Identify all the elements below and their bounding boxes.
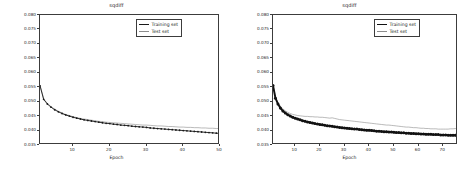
y-axis-tick-mark xyxy=(37,86,39,87)
y-axis-tick-label: 0.065 xyxy=(2,55,36,60)
series-marker-training xyxy=(76,117,78,119)
series-marker-training xyxy=(284,111,287,114)
plot-lines-left xyxy=(40,15,218,143)
y-axis-tick-mark xyxy=(37,130,39,131)
x-axis-tick-label: 70 xyxy=(434,147,450,152)
series-marker-training xyxy=(179,129,181,131)
legend-swatch-test xyxy=(139,31,149,32)
series-marker-training xyxy=(171,129,173,131)
x-axis-label-left: Epoch xyxy=(0,155,233,160)
y-axis-tick-mark xyxy=(270,130,272,131)
series-marker-training xyxy=(146,126,148,128)
series-marker-training xyxy=(72,116,74,118)
series-marker-training xyxy=(116,124,118,126)
series-marker-training xyxy=(142,126,144,128)
series-marker-training xyxy=(43,98,45,100)
series-line-test xyxy=(273,84,456,129)
y-axis-tick-mark xyxy=(37,14,39,15)
series-marker-training xyxy=(212,132,214,134)
y-axis-tick-mark xyxy=(270,72,272,73)
x-axis-tick-mark xyxy=(294,144,295,146)
y-axis-tick-mark xyxy=(37,57,39,58)
series-marker-training xyxy=(273,84,275,87)
series-marker-training xyxy=(279,107,282,110)
y-axis-tick-label: 0.050 xyxy=(2,98,36,103)
x-axis-tick-label: 60 xyxy=(410,147,426,152)
series-marker-training xyxy=(193,131,195,133)
y-axis-tick-mark xyxy=(270,144,272,145)
y-axis-tick-mark xyxy=(270,101,272,102)
legend-label-training: Training set xyxy=(152,22,179,27)
legend-label-test: Test set xyxy=(390,29,408,34)
x-axis-tick-mark xyxy=(368,144,369,146)
y-axis-tick-mark xyxy=(270,57,272,58)
legend-item-training: Training set xyxy=(139,22,178,27)
series-marker-training xyxy=(168,129,170,131)
x-axis-tick-mark xyxy=(344,144,345,146)
series-marker-training xyxy=(80,118,82,120)
series-marker-training xyxy=(186,130,188,132)
x-axis-tick-mark xyxy=(418,144,419,146)
y-axis-tick-mark xyxy=(37,144,39,145)
x-axis-tick-label: 20 xyxy=(311,147,327,152)
series-marker-training xyxy=(197,131,199,133)
legend-label-test: Test set xyxy=(152,29,170,34)
series-marker-training xyxy=(113,123,115,125)
y-axis-tick-label: 0.055 xyxy=(235,84,269,89)
x-axis-tick-label: 50 xyxy=(385,147,401,152)
series-marker-training xyxy=(65,114,67,116)
y-axis-tick-label: 0.080 xyxy=(235,12,269,17)
legend-swatch-training xyxy=(139,24,149,25)
y-axis-tick-label: 0.080 xyxy=(2,12,36,17)
series-marker-training xyxy=(131,125,133,127)
series-marker-training xyxy=(83,119,85,121)
y-axis-tick-label: 0.070 xyxy=(2,40,36,45)
series-marker-training xyxy=(98,121,100,123)
x-axis-tick-mark xyxy=(442,144,443,146)
series-marker-training xyxy=(190,130,192,132)
series-marker-training xyxy=(160,128,162,130)
y-axis-tick-label: 0.045 xyxy=(2,113,36,118)
series-marker-training xyxy=(91,120,93,122)
legend-right: Training set Test set xyxy=(374,19,420,37)
series-marker-training xyxy=(182,130,184,132)
series-marker-training xyxy=(274,97,277,100)
x-axis-tick-label: 10 xyxy=(64,147,80,152)
legend-left: Training set Test set xyxy=(136,19,182,37)
series-marker-training xyxy=(102,122,104,124)
y-axis-tick-label: 0.055 xyxy=(2,84,36,89)
series-marker-training xyxy=(54,109,56,111)
figure-container: sqdiff 0.0350.0400.0450.0500.0550.0600.0… xyxy=(0,0,466,172)
series-marker-training xyxy=(215,132,217,134)
y-axis-tick-label: 0.060 xyxy=(235,69,269,74)
legend-item-test: Test set xyxy=(139,29,178,34)
x-axis-tick-label: 30 xyxy=(138,147,154,152)
y-axis-tick-label: 0.075 xyxy=(2,26,36,31)
y-axis-tick-mark xyxy=(37,43,39,44)
chart-panel-left: sqdiff 0.0350.0400.0450.0500.0550.0600.0… xyxy=(0,0,233,172)
x-axis-tick-label: 40 xyxy=(360,147,376,152)
y-axis-tick-label: 0.040 xyxy=(235,127,269,132)
y-axis-tick-label: 0.045 xyxy=(235,113,269,118)
series-marker-training xyxy=(175,129,177,131)
series-marker-training xyxy=(201,131,203,133)
series-marker-training xyxy=(204,131,206,133)
x-axis-tick-label: 50 xyxy=(211,147,227,152)
y-axis-tick-mark xyxy=(270,115,272,116)
legend-item-training: Training set xyxy=(377,22,416,27)
plot-area-left xyxy=(39,14,219,144)
series-marker-training xyxy=(120,124,122,126)
x-axis-tick-label: 20 xyxy=(101,147,117,152)
series-marker-training xyxy=(46,103,48,105)
x-axis-tick-mark xyxy=(219,144,220,146)
series-line-training xyxy=(40,86,218,134)
y-axis-tick-label: 0.070 xyxy=(235,40,269,45)
legend-swatch-test xyxy=(377,31,387,32)
y-axis-tick-mark xyxy=(37,101,39,102)
y-axis-tick-mark xyxy=(270,43,272,44)
series-marker-training xyxy=(127,125,129,127)
chart-title-left: sqdiff xyxy=(0,2,233,8)
series-marker-training xyxy=(454,134,456,137)
series-marker-training xyxy=(157,128,159,130)
legend-label-training: Training set xyxy=(390,22,417,27)
